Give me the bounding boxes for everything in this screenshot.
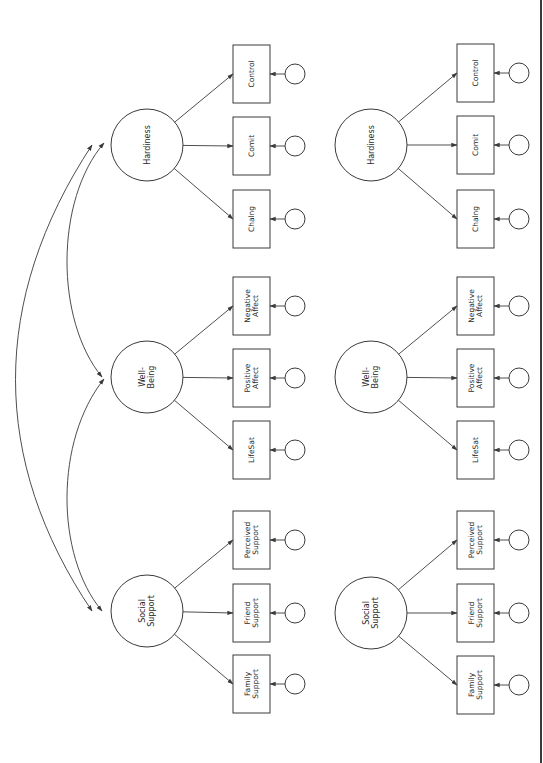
indicator-lifesat-label: LifeSat [247,437,256,463]
loading-arrow-well-being-to-negative-affect [175,306,233,354]
indicator-comit-label: Comit [471,134,480,156]
indicator-positive-affect-label: PositiveAffect [243,363,261,392]
latent-social-support-label: SocialSupport [362,597,380,629]
indicator-chalng-label: Chalng [471,206,480,232]
error-term-positive-affect-circle [509,368,529,388]
correlation-arc-hardiness-social-support [16,145,93,611]
sem-figure: HardinessControlComitChalngWell-BeingNeg… [0,0,543,763]
measurement-models: HardinessControlComitChalngWell-BeingNeg… [111,44,529,714]
latent-group-hardiness: HardinessControlComitChalng [335,44,529,248]
page-edge-divider [540,0,542,763]
error-term-chalng-circle [509,209,529,229]
loading-arrow-hardiness-to-control [399,73,457,122]
loading-arrow-social-support-to-family-support [174,634,233,684]
error-term-lifesat-circle [509,440,529,460]
indicator-perceived-support-label: PerceivedSupport [467,522,485,559]
error-term-family-support-circle [285,674,305,694]
indicator-friend-support-label: FriendSupport [243,598,261,628]
latent-group-social-support: SocialSupportPerceivedSupportFriendSuppo… [111,511,305,713]
error-term-comit-circle [509,135,529,155]
indicator-lifesat-label: LifeSat [471,437,480,463]
error-term-control-circle [509,63,529,83]
loading-arrow-well-being-to-positive-affect [407,377,457,378]
latent-hardiness-label: Hardiness [367,125,376,165]
model-a: HardinessControlComitChalngWell-BeingNeg… [111,45,305,713]
model-b: HardinessControlComitChalngWell-BeingNeg… [335,44,529,714]
indicator-perceived-support-label: PerceivedSupport [243,522,261,559]
loading-arrow-hardiness-to-comit [183,145,233,146]
latent-group-social-support: SocialSupportPerceivedSupportFriendSuppo… [335,511,529,714]
error-term-positive-affect-circle [285,368,305,388]
loading-arrow-well-being-to-positive-affect [183,377,233,378]
error-term-negative-affect-circle [285,296,305,316]
latent-group-well-being: Well-BeingNegativeAffectPositiveAffectLi… [111,277,305,479]
loading-arrow-social-support-to-family-support [399,636,457,685]
error-term-friend-support-circle [285,603,305,623]
error-term-friend-support-circle [509,603,529,623]
loading-arrow-hardiness-to-control [175,74,233,122]
error-term-negative-affect-circle [509,296,529,316]
indicator-family-support-label: FamilySupport [243,669,261,699]
loading-arrow-well-being-to-negative-affect [399,306,457,354]
indicator-friend-support-label: FriendSupport [467,598,485,628]
loading-arrow-hardiness-to-chalng [398,168,457,219]
latent-group-well-being: Well-BeingNegativeAffectPositiveAffectLi… [335,277,529,479]
error-term-comit-circle [285,136,305,156]
loading-arrow-well-being-to-lifesat [398,400,457,450]
structural-equation-model-diagram: HardinessControlComitChalngWell-BeingNeg… [0,0,543,763]
error-term-control-circle [285,64,305,84]
indicator-comit-label: Comit [247,135,256,157]
error-term-perceived-support-circle [509,530,529,550]
latent-hardiness-label: Hardiness [143,125,152,165]
loading-arrow-hardiness-to-chalng [174,168,233,219]
correlation-arc-well-being-social-support [67,379,104,611]
latent-well-being-label: Well-Being [138,366,156,389]
error-term-perceived-support-circle [285,530,305,550]
error-term-chalng-circle [285,209,305,229]
loading-arrow-social-support-to-perceived-support [398,540,457,590]
loading-arrow-social-support-to-friend-support [183,612,233,613]
indicator-control-label: Control [247,60,256,87]
error-term-lifesat-circle [285,440,305,460]
loading-arrow-social-support-to-perceived-support [175,540,233,588]
loading-arrow-well-being-to-lifesat [174,400,233,450]
latent-social-support-label: SocialSupport [138,595,156,627]
error-term-family-support-circle [509,675,529,695]
indicator-family-support-label: FamilySupport [467,670,485,700]
correlation-arcs [16,143,105,611]
indicator-chalng-label: Chalng [247,206,256,232]
indicator-control-label: Control [471,59,480,86]
indicator-positive-affect-label: PositiveAffect [467,363,485,392]
latent-group-hardiness: HardinessControlComitChalng [111,45,305,248]
latent-well-being-label: Well-Being [362,366,380,389]
correlation-arc-hardiness-well-being [67,143,104,377]
